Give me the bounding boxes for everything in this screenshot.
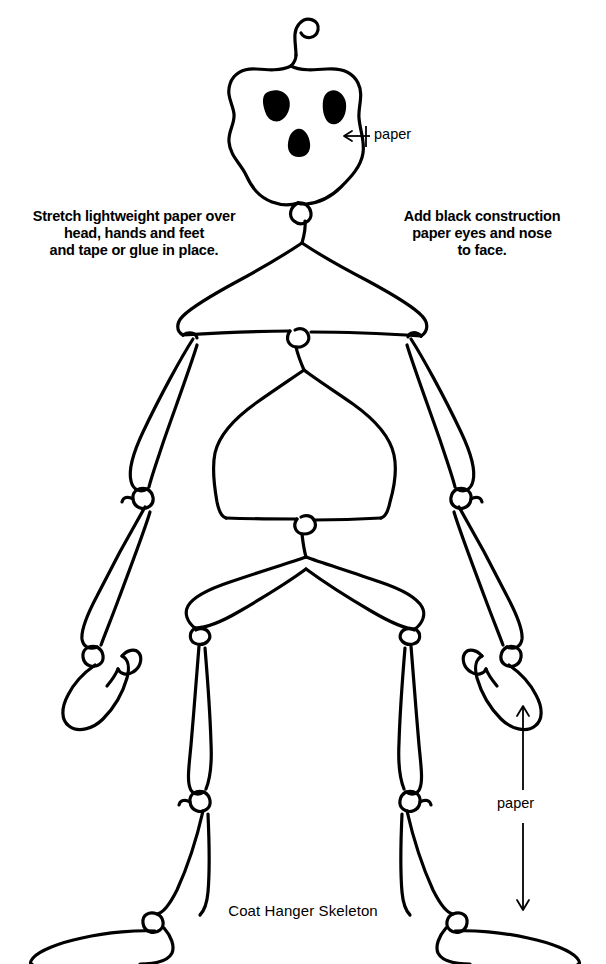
nose-icon	[288, 129, 310, 157]
illustration-canvas: Stretch lightweight paper over head, han…	[0, 0, 606, 964]
annotation-label-paper-head: paper	[374, 126, 411, 142]
right-eye-icon	[323, 90, 346, 124]
left-eye-icon	[263, 90, 290, 121]
ribcage-hanger	[214, 329, 396, 520]
coat-hanger-skeleton-drawing	[0, 0, 606, 964]
caption-right-instruction: Add black construction paper eyes and no…	[362, 208, 602, 259]
right-arm	[407, 339, 541, 730]
hanger-hook-icon	[291, 19, 318, 66]
figure-title: Coat Hanger Skeleton	[0, 902, 606, 919]
annotation-label-paper-leg: paper	[497, 795, 534, 811]
face-features	[263, 90, 346, 157]
left-arm	[63, 339, 197, 730]
caption-left-instruction: Stretch lightweight paper over head, han…	[8, 208, 260, 259]
paper-head-arrow	[344, 126, 370, 147]
pelvis-hanger	[186, 516, 424, 645]
neck-joint	[291, 203, 312, 243]
